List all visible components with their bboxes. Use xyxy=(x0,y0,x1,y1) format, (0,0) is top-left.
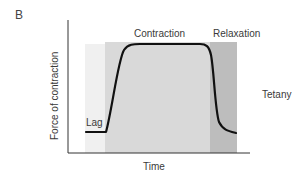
relaxation-region xyxy=(210,42,237,153)
y-axis-label: Force of contraction xyxy=(49,52,60,140)
muscle-contraction-diagram: Lag Contraction Relaxation Tetany Time F… xyxy=(0,0,307,179)
contraction-label: Contraction xyxy=(134,28,185,39)
lag-label: Lag xyxy=(86,117,103,128)
x-axis-label: Time xyxy=(143,161,165,172)
tetany-label: Tetany xyxy=(262,89,291,100)
relaxation-label: Relaxation xyxy=(213,28,260,39)
lag-region xyxy=(85,44,105,153)
